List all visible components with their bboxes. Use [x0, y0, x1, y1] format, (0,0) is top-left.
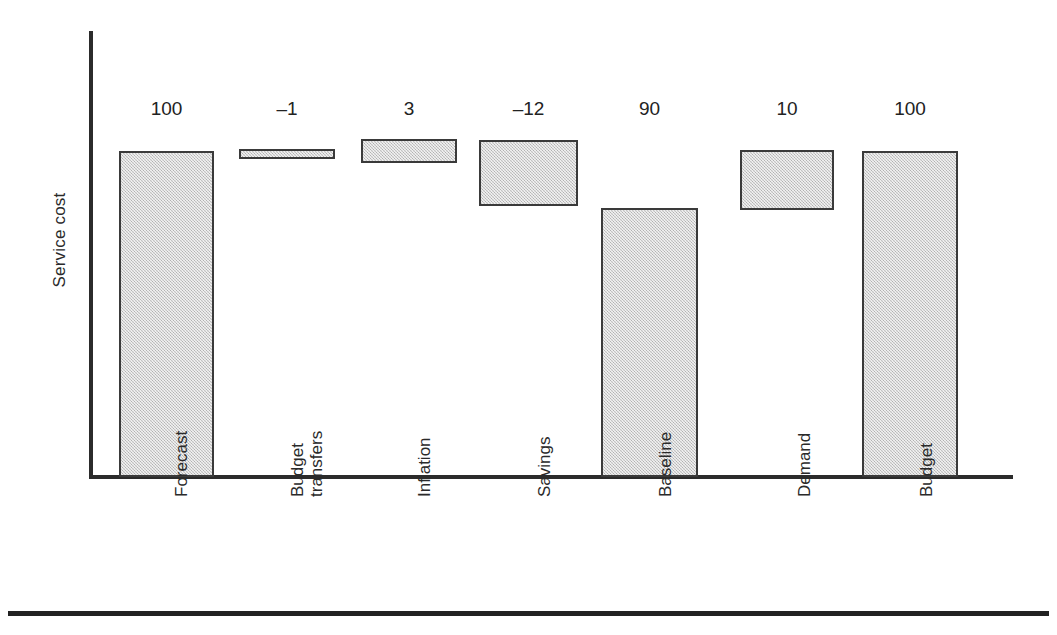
category-label-forecast: Forecast: [172, 497, 238, 516]
category-label-text: Savings: [535, 437, 554, 497]
category-label-text: Budget: [288, 443, 307, 497]
waterfall-chart-figure: Service cost 100 –1 3 –12 90 10 100 Fore…: [0, 0, 1057, 635]
value-label-baseline: 90: [601, 98, 698, 120]
category-label-text: Inflation: [415, 437, 434, 497]
category-label-text: Budget: [917, 443, 936, 497]
bar-forecast: [119, 151, 214, 477]
category-label-text: Baseline: [656, 432, 675, 497]
y-axis-title: Service cost: [50, 140, 70, 340]
value-label-budget-transfers: –1: [239, 98, 335, 120]
bar-baseline: [601, 208, 698, 477]
category-label-text: Demand: [795, 433, 814, 497]
value-label-budget: 100: [862, 98, 958, 120]
category-label-savings: Savings: [535, 497, 595, 516]
category-label-budget-transfers: Budgettransfers: [288, 497, 354, 535]
y-axis-line: [89, 31, 93, 479]
category-label-baseline: Baseline: [656, 497, 721, 516]
bar-inflation: [361, 139, 457, 163]
bar-budget: [862, 151, 958, 477]
category-label-text: Forecast: [172, 431, 191, 497]
bar-savings: [479, 140, 578, 206]
category-label-text-line2: transfers: [307, 431, 326, 497]
value-label-savings: –12: [479, 98, 578, 120]
category-label-demand: Demand: [795, 497, 859, 516]
value-label-forecast: 100: [119, 98, 214, 120]
category-label-budget: Budget: [917, 497, 971, 516]
bottom-separator-rule: [8, 611, 1049, 616]
value-label-demand: 10: [740, 98, 834, 120]
category-label-inflation: Inflation: [415, 497, 475, 516]
bar-demand: [740, 150, 834, 210]
value-label-inflation: 3: [361, 98, 457, 120]
bar-budget-transfers: [239, 149, 335, 159]
